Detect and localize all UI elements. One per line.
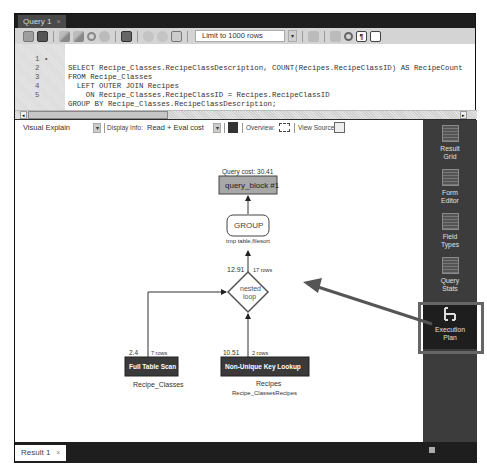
save-icon[interactable] (37, 31, 48, 42)
code-line[interactable]: 1 • SELECT Recipe_Classes.RecipeClassDes… (15, 46, 475, 55)
field-types-icon (442, 213, 459, 230)
sidebar-label: Editor (423, 197, 477, 205)
form-icon (442, 169, 459, 186)
beautify-icon[interactable] (308, 31, 319, 42)
sidebar-label: Types (423, 241, 477, 249)
commit-icon[interactable] (143, 31, 154, 42)
horizontal-scrollbar[interactable]: ◂ ▸ (15, 110, 477, 119)
open-file-icon[interactable] (23, 31, 34, 42)
tab-label: Result 1 (21, 448, 50, 457)
toolbar-divider (187, 31, 188, 42)
limit-rows-select[interactable]: Limit to 1000 rows (195, 30, 285, 42)
find-icon[interactable] (344, 32, 353, 41)
panel-toggle-icon[interactable] (429, 447, 435, 453)
close-tab-icon[interactable]: × (56, 449, 60, 456)
scroll-thumb[interactable] (28, 111, 168, 119)
full-table-scan-node[interactable]: Full Table Scan (129, 363, 176, 370)
nested-loop-cost: 12.91 (227, 266, 245, 273)
code-line[interactable]: 4 ON Recipe_Classes.RecipeClassID = Reci… (15, 73, 475, 82)
annotation-highlight-box (418, 302, 484, 354)
code-line[interactable]: 2 FROM Recipe_Classes (15, 55, 475, 64)
workbench-window: Query 1× Limit to 1000 rows ▾ ¶ 1 • SELE… (14, 13, 476, 463)
toggle-continue-icon[interactable] (121, 31, 132, 42)
sql-editor-toolbar: Limit to 1000 rows ▾ ¶ (15, 28, 475, 44)
tab-query-1[interactable]: Query 1× (18, 15, 66, 28)
toolbar-divider (137, 31, 138, 42)
non-unique-key-lookup-node[interactable]: Non-Unique Key Lookup (225, 363, 301, 370)
nukl-key-name: Recipe_ClassesRecipes (232, 390, 297, 396)
grid-icon (442, 125, 459, 142)
snippet-icon[interactable] (330, 31, 341, 42)
sidebar-label: Result (423, 145, 477, 153)
tab-label: Query 1 (23, 17, 51, 26)
code-text: ON Recipe_Classes.RecipeClassID = Recipe… (68, 91, 330, 100)
nukl-rows: 2 rows (252, 350, 268, 356)
code-line[interactable]: 3 LEFT OUTER JOIN Recipes (15, 64, 475, 73)
group-node[interactable]: GROUP (234, 221, 263, 230)
plan-connectors (15, 120, 423, 442)
nukl-cost: 10.51 (223, 349, 239, 356)
fts-cost: 2.4 (129, 349, 138, 356)
toolbar-divider (302, 31, 303, 42)
fts-rows: 7 rows (151, 350, 167, 356)
query-tab-bar: Query 1× (15, 14, 475, 28)
sidebar-item-form-editor[interactable]: Form Editor (423, 166, 477, 210)
toolbar-divider (324, 31, 325, 42)
visual-explain-pane: Visual Explain ▾ Display Info: Read + Ev… (15, 120, 423, 442)
sidebar-label: Grid (423, 153, 477, 161)
nested-loop-node-line2: loop (243, 293, 256, 300)
code-line[interactable]: 5 GROUP BY Recipe_Classes.RecipeClassDes… (15, 82, 475, 91)
sidebar-item-result-grid[interactable]: Result Grid (423, 122, 477, 166)
tab-result-1[interactable]: Result 1× (15, 445, 66, 461)
sidebar-label: Field (423, 233, 477, 241)
sidebar-label: Form (423, 189, 477, 197)
close-tab-icon[interactable]: × (56, 18, 60, 25)
group-detail: tmp table,filesort (226, 238, 270, 244)
rollback-icon[interactable] (157, 31, 168, 42)
explain-icon[interactable] (87, 32, 96, 41)
autocommit-icon[interactable] (171, 31, 182, 42)
nested-loop-node[interactable]: nested (240, 285, 261, 292)
toolbar-divider (115, 31, 116, 42)
stats-icon (442, 257, 459, 274)
fts-table-name: Recipe_Classes (133, 381, 184, 388)
wrap-icon[interactable] (370, 31, 381, 42)
sidebar-label: Query (423, 277, 477, 285)
result-sidebar: Result Grid Form Editor Field Types Quer… (423, 120, 477, 442)
sidebar-item-field-types[interactable]: Field Types (423, 210, 477, 254)
query-block-node[interactable]: query_block #1 (225, 181, 279, 190)
code-text: GROUP BY Recipe_Classes.RecipeClassDescr… (68, 100, 276, 109)
sql-editor[interactable]: 1 • SELECT Recipe_Classes.RecipeClassDes… (15, 44, 475, 110)
toolbar-divider (53, 31, 54, 42)
query-cost-label: Query cost: 30.41 (222, 168, 273, 175)
invisible-chars-icon[interactable]: ¶ (356, 31, 367, 42)
sidebar-label: Stats (423, 285, 477, 293)
execute-icon[interactable] (59, 31, 70, 42)
scroll-right-icon[interactable]: ▸ (460, 111, 467, 119)
execute-current-icon[interactable] (73, 31, 84, 42)
chevron-down-icon[interactable]: ▾ (288, 30, 297, 42)
sidebar-item-query-stats[interactable]: Query Stats (423, 254, 477, 298)
nested-loop-rows: 17 rows (253, 267, 272, 273)
line-number: 5 (35, 91, 55, 100)
nukl-table-name: Recipes (256, 380, 281, 387)
scroll-left-icon[interactable]: ◂ (20, 111, 27, 119)
stop-icon[interactable] (99, 31, 110, 42)
execution-plan-diagram: Query cost: 30.41 query_block #1 GROUP t… (15, 120, 423, 442)
result-tab-bar: Result 1× (15, 442, 477, 463)
